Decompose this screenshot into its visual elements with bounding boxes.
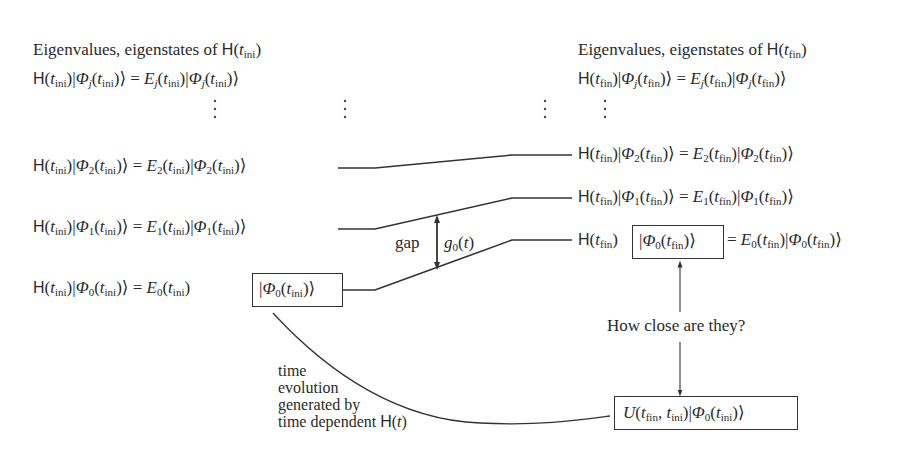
- left-title-text: Eigenvalues, eigenstates of: [33, 40, 222, 59]
- level-1-line: [338, 198, 572, 229]
- gap-symbol: g0(t): [444, 234, 474, 253]
- right-general-equation: H(tfin)|Φj(tfin)⟩ = Ej(tfin)|Φj(tfin)⟩: [578, 70, 786, 89]
- g-symbol: g: [444, 233, 453, 252]
- left-row-1: H(tini)|Φ1(tini)⟩ = E1(tini)|Φ1(tini)⟩: [33, 218, 246, 237]
- initial-ground-state-box: |Φ0(tini)⟩: [252, 273, 343, 307]
- right-title: Eigenvalues, eigenstates of H(tfin): [578, 41, 807, 60]
- evolution-line-2: evolution: [278, 379, 407, 396]
- right-row-2: H(tfin)|Φ2(tfin)⟩ = E2(tfin)|Φ2(tfin)⟩: [578, 145, 794, 164]
- vdots: [214, 100, 606, 118]
- left-row-2: H(tini)|Φ2(tini)⟩ = E2(tini)|Φ2(tini)⟩: [33, 157, 246, 176]
- evolution-line-3: generated by: [278, 396, 407, 413]
- initial-ground-state: |Φ0(tini)⟩: [259, 280, 315, 299]
- g-sub: 0: [453, 241, 459, 253]
- left-title: Eigenvalues, eigenstates of H(tini): [33, 41, 261, 60]
- H-symbol: H: [380, 413, 392, 430]
- left-row-0: H(tini)|Φ0(tini)⟩ = E0(tini): [33, 279, 190, 298]
- evolution-line-4-text: time dependent: [278, 413, 380, 430]
- fin-sub: fin: [789, 48, 801, 60]
- evolved-state: U(tfin, tini)|Φ0(tini)⟩: [623, 404, 745, 423]
- level-2-line: [338, 155, 572, 168]
- right-title-text: Eigenvalues, eigenstates of: [578, 40, 767, 59]
- evolution-line-1: time: [278, 362, 407, 379]
- right-row-1: H(tfin)|Φ1(tfin)⟩ = E1(tfin)|Φ1(tfin)⟩: [578, 188, 794, 207]
- comparison-question: How close are they?: [607, 317, 745, 334]
- evolution-line-4: time dependent H(t): [278, 413, 407, 430]
- final-ground-state: |Φ0(tfin)⟩: [639, 232, 696, 251]
- gap-label: gap: [395, 234, 420, 251]
- evolved-state-box: U(tfin, tini)|Φ0(tini)⟩: [614, 396, 798, 430]
- evolution-label: time evolution generated by time depende…: [278, 362, 407, 430]
- right-row-0-rhs: = E0(tfin)|Φ0(tfin)⟩: [727, 231, 842, 250]
- final-ground-state-box: |Φ0(tfin)⟩: [632, 225, 724, 259]
- left-general-equation: H(tini)|Φj(tini)⟩ = Ej(tini)|Φj(tini)⟩: [33, 70, 239, 89]
- H-symbol: H: [767, 41, 779, 58]
- ini-sub: ini: [244, 48, 256, 60]
- right-row-0-H: H(tfin): [578, 231, 618, 250]
- H-symbol: H: [222, 41, 234, 58]
